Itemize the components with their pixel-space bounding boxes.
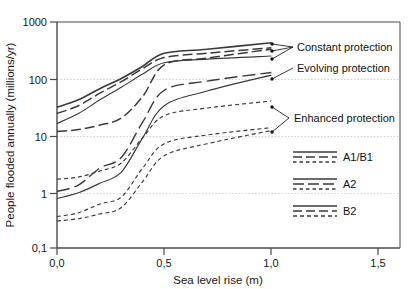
legend-label-a1b1: A1/B1 bbox=[343, 151, 373, 163]
y-tick-label-1: 1 bbox=[41, 188, 47, 200]
endpoint-marker-evolving bbox=[270, 77, 273, 80]
y-axis-label: People flooded annually (millions/yr) bbox=[4, 42, 16, 227]
y-tick-label-10: 10 bbox=[35, 131, 47, 143]
annotation-constant-protection: Constant protection bbox=[297, 41, 392, 53]
y-ticks bbox=[50, 22, 57, 248]
legend-label-a2: A2 bbox=[343, 178, 356, 190]
x-tick-label-0.0: 0,0 bbox=[49, 257, 64, 269]
legend-label-b2: B2 bbox=[343, 205, 356, 217]
endpoint-marker-a1b1-constant bbox=[270, 57, 273, 60]
figure-container: 1000 100 10 1 0,1 0,0 0,5 1,0 1,5 Sea le… bbox=[0, 0, 413, 289]
endpoint-marker-b2-enhanced bbox=[270, 130, 273, 133]
annotation-enhanced-protection: Enhanced protection bbox=[294, 112, 395, 124]
annotation-evolving-protection: Evolving protection bbox=[297, 62, 390, 74]
x-ticks bbox=[57, 248, 378, 255]
y-tick-label-1000: 1000 bbox=[23, 16, 47, 28]
x-tick-label-0.5: 0,5 bbox=[156, 257, 171, 269]
y-tick-label-0.1: 0,1 bbox=[32, 242, 47, 254]
x-tick-label-1.0: 1,0 bbox=[263, 257, 278, 269]
endpoint-marker-a2-constant bbox=[270, 49, 273, 52]
x-tick-label-1.5: 1,5 bbox=[370, 257, 385, 269]
chart-svg: 1000 100 10 1 0,1 0,0 0,5 1,0 1,5 Sea le… bbox=[0, 0, 413, 289]
x-axis-label: Sea level rise (m) bbox=[173, 274, 263, 286]
endpoint-marker-b2-constant bbox=[270, 42, 273, 45]
endpoint-marker-a2-enhanced bbox=[270, 105, 273, 108]
y-tick-label-100: 100 bbox=[29, 74, 47, 86]
